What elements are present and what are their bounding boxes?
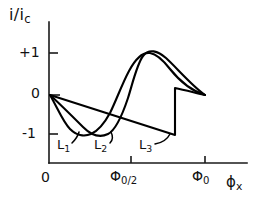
- y-tick-label-minus1: -1: [22, 126, 36, 140]
- x-tick-label-flux: Φ0: [192, 169, 209, 186]
- x-tick-flux-symbol: Φ: [192, 168, 203, 184]
- curve-l3: [50, 88, 205, 135]
- curve-label-l3-sub: 3: [146, 143, 152, 154]
- x-axis-title-sub: x: [236, 180, 242, 193]
- curve-label-l2-sub: 2: [101, 143, 107, 154]
- y-tick-label-plus1: +1: [19, 45, 40, 59]
- curve-label-l1: L1: [57, 138, 70, 153]
- curve-label-l2: L2: [94, 138, 107, 153]
- y-tick-label-zero: 0: [31, 86, 40, 100]
- curve-label-l3: L3: [139, 138, 152, 153]
- y-axis-title: i/ic: [9, 7, 31, 26]
- leader-line-l3: [155, 134, 170, 144]
- y-axis-title-sub: c: [24, 12, 30, 26]
- curve-label-l1-sub: 1: [64, 143, 70, 154]
- x-tick-label-halfflux: Φ0/2: [110, 169, 137, 186]
- x-axis-title-text: ϕ: [226, 173, 236, 191]
- y-axis-title-text: i/i: [9, 5, 24, 24]
- x-tick-label-origin: 0: [41, 170, 50, 184]
- figure-canvas: i/ic +1 0 -1 0 Φ0/2 Φ0 ϕx L1 L2 L3: [0, 0, 257, 202]
- curve-l2: [50, 51, 205, 136]
- x-tick-flux-sub: 0: [203, 175, 209, 186]
- x-tick-halfflux-sub: 0/2: [121, 175, 137, 186]
- x-tick-halfflux-symbol: Φ: [110, 168, 121, 184]
- x-axis-title: ϕx: [226, 175, 242, 193]
- curve-l1: [50, 53, 205, 135]
